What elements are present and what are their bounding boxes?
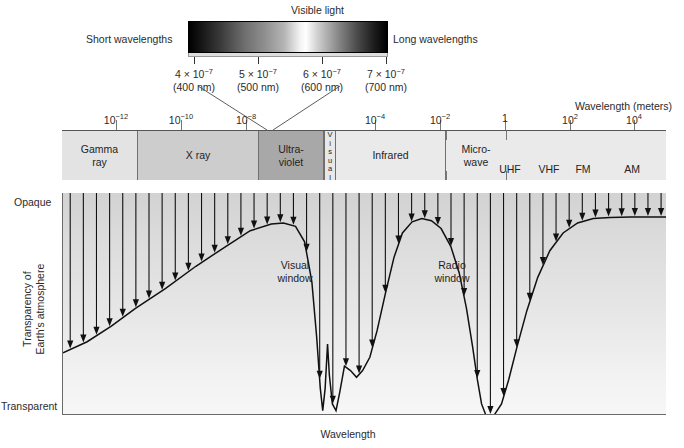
radiation-arrow-head [579,213,585,221]
spectrum-band-ultraviolet: Ultra-violet [259,131,324,180]
visual-window-line1: Visual [281,259,309,271]
radiation-arrow-head [251,221,257,229]
spectrum-band-label: Visual [326,130,333,181]
y-axis-title-line1: Transparency of [21,271,33,346]
wavelength-tick-label: 1 [502,112,508,124]
wavelength-tick-label: 10−2 [430,112,450,126]
radiation-arrow-head [290,217,296,225]
visual-window-label: Visualwindow [277,259,312,285]
radiation-arrow-head [592,209,598,217]
visual-window-line2: window [277,272,312,284]
spectrum-band-label: Gammaray [81,143,118,168]
radiation-arrow-head [343,358,349,366]
opacity-curve [63,217,666,415]
visible-tick-value: 4 × 10−7 [175,68,213,80]
radiation-arrow-head [619,208,625,216]
spectrum-bar-shadow [188,53,388,57]
radiation-arrow-head [409,213,415,221]
radiation-arrow-head [277,214,283,222]
spectrum-band-visual: Visual [324,131,336,180]
radiation-arrow-head [80,334,86,342]
spectrum-band-gamma-ray: Gammaray [62,131,138,180]
wavelength-tick-label: 10−10 [169,112,193,126]
wavelength-axis-caption: Wavelength (meters) [575,100,672,112]
wavelength-tick-label: 10−8 [236,112,256,126]
visible-tick-label: 6 × 10−7(600 nm) [301,66,343,94]
spectrum-band-label: X ray [186,149,211,161]
atmospheric-transparency-plot [62,193,666,415]
visible-tick-label: 5 × 10−7(500 nm) [237,66,279,94]
microwave-boundary-tick [446,131,447,140]
visible-tick-mark [386,57,387,64]
wavelength-tick-label: 10−12 [104,112,128,126]
spectrum-band-label: Micro-wave [461,143,490,168]
visible-tick-nm: (400 nm) [173,81,215,94]
y-axis-transparent-label: Transparent [1,400,57,412]
microwave-boundary-tick [446,171,447,180]
visible-tick-nm: (500 nm) [237,81,279,94]
long-wavelengths-label: Long wavelengths [393,33,478,45]
spectrum-band-label: Infrared [372,149,408,161]
radio-window-line1: Radio [438,259,465,271]
radio-window-label: Radiowindow [434,259,469,285]
visible-tick-nm: (600 nm) [301,81,343,94]
visible-tick-label: 7 × 10−7(700 nm) [365,66,407,94]
y-axis-title: Transparency of Earth's atmosphere [21,239,47,379]
visible-tick-nm: (700 nm) [365,81,407,94]
visible-tick-mark [322,57,323,64]
wavelength-tick-label: 102 [562,112,578,126]
transparency-curve-svg [63,193,666,415]
short-wavelengths-label: Short wavelengths [86,33,172,45]
visible-light-title: Visible light [291,4,344,16]
radiation-arrow-head [67,341,73,349]
spectrum-band-x-ray: X ray [138,131,259,180]
radiation-arrow-head [422,210,428,218]
microwave-boundary-tick [506,131,507,140]
radiation-arrow-head [264,216,270,224]
visible-tick-value: 6 × 10−7 [303,68,341,80]
radiation-arrow-head [487,406,493,414]
spectrum-band-label: Ultra-violet [278,143,304,168]
visible-tick-value: 5 × 10−7 [239,68,277,80]
radiation-arrow-head [605,209,611,217]
incoming-radiation-arrows [67,193,664,414]
visible-tick-mark [258,57,259,64]
radiation-arrow-head [645,208,651,216]
y-axis-opaque-label: Opaque [14,196,51,208]
visible-tick-label: 4 × 10−7(400 nm) [173,66,215,94]
visible-spectrum-gradient-bar [188,21,388,53]
y-axis-title-line2: Earth's atmosphere [34,264,46,355]
spectrum-band-microwave: Micro-wave [446,131,506,180]
radio-window-line2: window [434,272,469,284]
wavelength-tick-label: 10−4 [365,112,385,126]
x-axis-title: Wavelength [320,428,375,440]
radiation-arrow-head [658,208,664,216]
electromagnetic-spectrum-figure: Visible light Short wavelengths Long wav… [0,0,684,448]
spectrum-band-infrared: Infrared [336,131,446,180]
visible-tick-mark [194,57,195,64]
wavelength-tick-label: 104 [626,112,642,126]
visible-tick-value: 7 × 10−7 [367,68,405,80]
radiation-arrow-head [632,208,638,216]
